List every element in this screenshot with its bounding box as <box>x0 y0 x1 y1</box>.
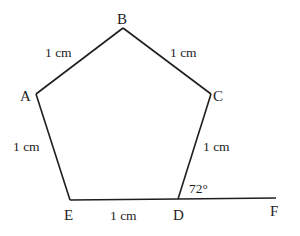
vertex-label-a: A <box>20 88 31 104</box>
vertex-label-d: D <box>173 207 184 223</box>
vertex-label-f: F <box>270 203 278 219</box>
side-length-ab: 1 cm <box>45 45 72 60</box>
vertex-label-b: B <box>117 11 127 27</box>
side-length-de: 1 cm <box>110 208 137 223</box>
edge-ea <box>36 94 70 200</box>
side-length-cd: 1 cm <box>203 139 230 154</box>
edge-ed <box>70 199 178 200</box>
extension-df <box>178 198 276 199</box>
vertex-label-e: E <box>64 207 73 223</box>
pentagon-diagram: B A C E D F 1 cm 1 cm 1 cm 1 cm 1 cm 72° <box>0 0 300 236</box>
angle-label-d: 72° <box>189 181 208 196</box>
side-length-bc: 1 cm <box>170 45 197 60</box>
edge-bc <box>123 28 211 94</box>
side-length-ea: 1 cm <box>13 139 40 154</box>
vertex-label-c: C <box>213 88 223 104</box>
edge-ab <box>36 28 123 94</box>
